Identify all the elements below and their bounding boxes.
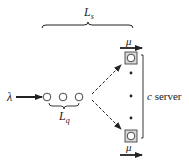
queue-length-label: Lq: [58, 109, 70, 125]
system-length-brace: [42, 22, 133, 28]
servers-bracket: [141, 55, 143, 138]
queue: [43, 93, 83, 101]
arrival-rate-label: λ: [6, 90, 12, 104]
service-rate-top-label: μ: [125, 35, 132, 47]
servers-label: c server: [147, 90, 182, 102]
ellipsis-dots: [130, 72, 133, 120]
server-customer-icon: [127, 132, 135, 140]
server-customer-icon: [127, 54, 135, 62]
customer-circle-icon: [75, 93, 83, 101]
server-top: [125, 52, 137, 64]
system-length-label: Ls: [83, 5, 94, 21]
customer-circle-icon: [59, 93, 67, 101]
dispatch-arrow-bottom-icon: [92, 100, 121, 129]
service-rate-bottom-label: μ: [125, 141, 132, 153]
dispatch-arrow-top-icon: [92, 65, 121, 94]
customer-circle-icon: [43, 93, 51, 101]
queueing-diagram: Ls λ Lq μ μ c server: [0, 0, 189, 167]
